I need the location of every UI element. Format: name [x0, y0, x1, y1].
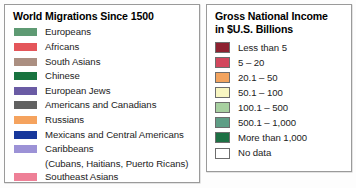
legend-row: Chinese — [12, 69, 193, 84]
gni-item-label: More than 1,000 — [238, 130, 307, 145]
migration-legend-item: Mexicans and Central Americans — [12, 128, 193, 143]
color-swatch-icon — [215, 42, 230, 53]
color-swatch-icon — [215, 87, 230, 98]
gni-item-label: Less than 5 — [238, 40, 287, 55]
gni-panel-title-line2: in $U.S. Billions — [215, 23, 345, 35]
legend-canvas: World Migrations Since 1500 EuropeansAfr… — [0, 0, 356, 188]
migration-legend-item: South Asians — [12, 55, 193, 70]
migration-legend-item: Caribbeans(Cubans, Haitians, Puerto Rica… — [12, 142, 193, 170]
color-swatch-icon — [215, 117, 230, 128]
legend-row: Russians — [12, 113, 193, 128]
migration-legend-item: Russians — [12, 113, 193, 128]
legend-row: Africans — [12, 40, 193, 55]
legend-item-sublabel: (Cubans, Haitians, Puerto Ricans) — [45, 157, 193, 170]
legend-item-label: Southeast Asians — [45, 170, 118, 185]
migration-legend-item: Africans — [12, 40, 193, 55]
gni-item-label: No data — [238, 145, 271, 160]
color-swatch-icon — [215, 72, 230, 83]
legend-item-label: South Asians — [45, 55, 100, 70]
color-swatch-icon — [14, 101, 37, 109]
legend-row: Southeast Asians — [12, 170, 193, 185]
legend-item-label: Americans and Canadians — [45, 98, 156, 113]
color-swatch-icon — [14, 87, 37, 95]
gni-legend-item: Less than 5 — [214, 40, 345, 55]
color-swatch-icon — [14, 43, 37, 51]
legend-row: South Asians — [12, 55, 193, 70]
legend-item-label: Mexicans and Central Americans — [45, 128, 184, 143]
migrations-legend-list: EuropeansAfricansSouth AsiansChineseEuro… — [12, 25, 193, 184]
gni-item-label: 500.1 – 1,000 — [238, 115, 296, 130]
world-migrations-legend-panel: World Migrations Since 1500 EuropeansAfr… — [4, 4, 200, 183]
color-swatch-icon — [215, 148, 230, 159]
legend-row: European Jews — [12, 84, 193, 99]
legend-item-label: Caribbeans — [45, 142, 94, 157]
migration-legend-item: Americans and Canadians — [12, 98, 193, 113]
gni-legend-item: 500.1 – 1,000 — [214, 115, 345, 130]
gni-legend-item: No data — [214, 145, 345, 160]
gni-legend-item: 100.1 – 500 — [214, 100, 345, 115]
migration-legend-item: Europeans — [12, 25, 193, 40]
color-swatch-icon — [215, 57, 230, 68]
color-swatch-icon — [14, 145, 37, 153]
color-swatch-icon — [14, 72, 37, 80]
color-swatch-icon — [14, 131, 37, 139]
gni-item-label: 20.1 – 50 — [238, 70, 278, 85]
migration-legend-item: Chinese — [12, 69, 193, 84]
gni-item-label: 50.1 – 100 — [238, 85, 283, 100]
legend-item-label: Europeans — [45, 25, 91, 40]
gross-national-income-legend-panel: Gross National Income in $U.S. Billions … — [206, 4, 352, 172]
migration-legend-item: European Jews — [12, 84, 193, 99]
gni-legend-item: More than 1,000 — [214, 130, 345, 145]
legend-item-label: European Jews — [45, 84, 110, 99]
gni-legend-item: 50.1 – 100 — [214, 85, 345, 100]
legend-item-label: Chinese — [45, 69, 80, 84]
gni-item-label: 5 – 20 — [238, 55, 264, 70]
legend-item-label: Russians — [45, 113, 84, 128]
gni-legend-item: 20.1 – 50 — [214, 70, 345, 85]
legend-row: Americans and Canadians — [12, 98, 193, 113]
color-swatch-icon — [14, 28, 37, 36]
legend-item-label: Africans — [45, 40, 79, 55]
gni-item-label: 100.1 – 500 — [238, 100, 288, 115]
color-swatch-icon — [14, 58, 37, 66]
migration-legend-item: Southeast Asians — [12, 170, 193, 185]
color-swatch-icon — [14, 173, 37, 181]
color-swatch-icon — [215, 132, 230, 143]
gni-panel-title-line1: Gross National Income — [215, 10, 345, 22]
gni-legend-list: Less than 55 – 2020.1 – 5050.1 – 100100.… — [214, 40, 345, 161]
migrations-panel-title: World Migrations Since 1500 — [13, 10, 193, 22]
color-swatch-icon — [215, 102, 230, 113]
legend-row: Caribbeans — [12, 142, 193, 157]
gni-legend-item: 5 – 20 — [214, 55, 345, 70]
color-swatch-icon — [14, 116, 37, 124]
legend-row: Mexicans and Central Americans — [12, 128, 193, 143]
legend-row: Europeans — [12, 25, 193, 40]
